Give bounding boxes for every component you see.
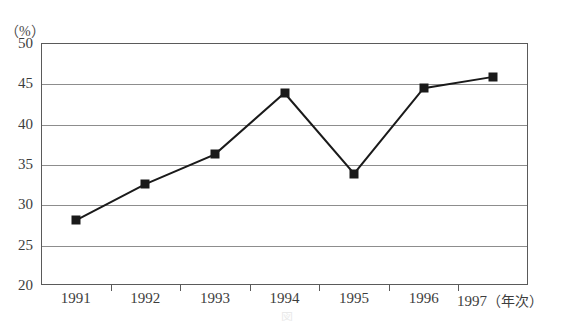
plot-area <box>41 43 528 285</box>
x-tick-label-1995: 1995 <box>339 290 369 307</box>
x-tick-label-1997: 1997（年次） <box>457 290 543 310</box>
y-tick-label-40: 40 <box>3 115 33 132</box>
data-point-1991 <box>71 216 80 225</box>
data-point-1995 <box>350 169 359 178</box>
scan-artifact-caption: 図 <box>0 312 574 321</box>
x-tick-label-1992: 1992 <box>130 290 160 307</box>
gridline-40 <box>42 125 527 126</box>
y-tick-label-45: 45 <box>3 75 33 92</box>
y-tick-label-25: 25 <box>3 236 33 253</box>
x-tick-mark-3 <box>250 285 251 291</box>
gridline-30 <box>42 205 527 206</box>
data-point-1996 <box>419 84 428 93</box>
data-point-1997 <box>489 72 498 81</box>
y-tick-label-20: 20 <box>3 277 33 294</box>
x-tick-label-1993: 1993 <box>200 290 230 307</box>
x-tick-label-1994: 1994 <box>270 290 300 307</box>
chart-page: （%） 20253035404550 199119921993199419951… <box>0 0 574 325</box>
gridline-45 <box>42 84 527 85</box>
x-tick-label-1991: 1991 <box>61 290 91 307</box>
y-tick-label-35: 35 <box>3 156 33 173</box>
gridline-35 <box>42 165 527 166</box>
x-tick-mark-1 <box>111 285 112 291</box>
y-tick-label-50: 50 <box>3 35 33 52</box>
data-point-1993 <box>210 150 219 159</box>
x-tick-mark-2 <box>180 285 181 291</box>
x-tick-mark-5 <box>389 285 390 291</box>
gridline-25 <box>42 246 527 247</box>
x-tick-label-1996: 1996 <box>409 290 439 307</box>
y-tick-label-30: 30 <box>3 196 33 213</box>
x-tick-mark-4 <box>319 285 320 291</box>
data-point-1992 <box>141 180 150 189</box>
data-point-1994 <box>280 89 289 98</box>
